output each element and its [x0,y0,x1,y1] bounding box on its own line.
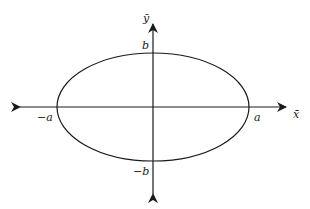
y-axis-label: ȳ [142,12,150,25]
label-pos-b: b [142,39,149,52]
label-neg-a: −a [37,111,53,124]
ellipse-diagram: x̄ ȳ a −a b −b [0,0,310,209]
label-pos-a: a [254,111,261,124]
x-axis-label: x̄ [293,108,300,121]
label-neg-b: −b [133,165,149,178]
